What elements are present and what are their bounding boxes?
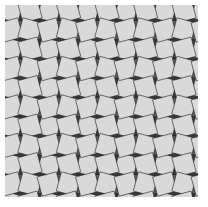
snub-square-tiling: [0, 0, 208, 207]
tiling-image: Snub square tiling pattern: [0, 0, 208, 207]
